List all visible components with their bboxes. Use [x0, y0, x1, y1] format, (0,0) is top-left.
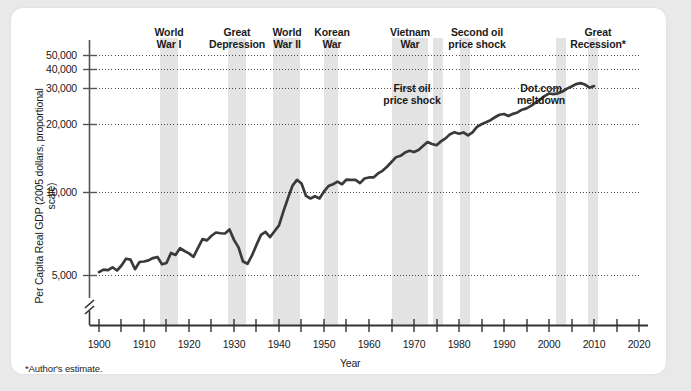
- band-second-oil-shock: [460, 38, 470, 326]
- event-label-great-recession-line1: Great: [556, 26, 640, 38]
- figure-page: 50,000 40,000 30,000 20,000 10,000 5,000…: [0, 0, 691, 391]
- event-label-world-war-i-line2: War I: [139, 38, 199, 50]
- y-axis-title: Per Capita Real GDP (2005 dollars, propo…: [33, 76, 57, 316]
- chart-card: 50,000 40,000 30,000 20,000 10,000 5,000…: [11, 8, 666, 374]
- annotation-first-oil-shock-line1: First oil: [374, 82, 450, 94]
- chart-plot-area: [11, 8, 666, 374]
- event-label-korean-war-line2: War: [302, 38, 362, 50]
- ytick-label-40000: 40,000: [19, 63, 77, 75]
- ytick-label-50000: 50,000: [19, 49, 77, 61]
- event-label-great-recession-line2: Recession*: [556, 38, 640, 50]
- band-world-war-i: [160, 38, 178, 326]
- band-great-depression: [228, 38, 246, 326]
- event-label-korean-war-line1: Korean: [302, 26, 362, 38]
- footnote: *Author's estimate.: [25, 363, 103, 374]
- xtick-label-2020: 2020: [609, 338, 669, 350]
- band-great-recession: [588, 38, 598, 326]
- event-label-second-oil-shock-line1: Second oil: [436, 26, 518, 38]
- event-label-world-war-i-line1: World: [139, 26, 199, 38]
- event-label-second-oil-shock-line2: price shock: [436, 38, 518, 50]
- annotation-first-oil-shock-line2: price shock: [374, 94, 450, 106]
- event-label-vietnam-war-line1: Vietnam: [377, 26, 443, 38]
- annotation-dotcom-meltdown-line2: meltdown: [501, 94, 581, 106]
- annotation-dotcom-meltdown-line1: Dot.com: [501, 82, 581, 94]
- x-axis-title: Year: [340, 357, 360, 369]
- event-label-vietnam-war-line2: War: [377, 38, 443, 50]
